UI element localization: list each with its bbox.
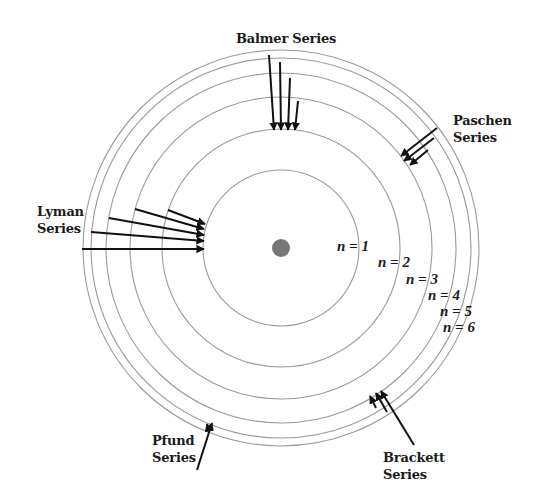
orbit-label-n1: n = 1 (337, 238, 369, 255)
orbit-label-n5: n = 5 (440, 303, 472, 320)
paschen-arrow (401, 128, 437, 156)
orbit-label-n2: n = 2 (378, 254, 410, 271)
pfund-arrow (207, 424, 209, 432)
pfund-label-line-2: Series (152, 449, 196, 466)
balmer-label-line: Balmer Series (236, 31, 336, 46)
nucleus (272, 239, 290, 257)
lyman-label-line-2: Series (37, 220, 84, 237)
paschen-label-line-2: Series (453, 129, 512, 146)
lyman-arrow (168, 210, 205, 224)
brackett-arrow (370, 396, 376, 408)
orbit-label-n3: n = 3 (406, 271, 438, 288)
brackett-label-line-2: Series (383, 466, 445, 483)
brackett-series-label: Brackett Series (383, 449, 445, 483)
balmer-arrow (269, 55, 274, 130)
pfund-series-label: Pfund Series (152, 432, 196, 466)
orbit-label-n4: n = 4 (428, 287, 460, 304)
nucleus-dot (272, 239, 290, 257)
pfund-label-line-1: Pfund (152, 432, 196, 449)
lyman-arrow (109, 218, 204, 235)
balmer-series-label: Balmer Series (236, 30, 336, 47)
lyman-label-line-1: Lyman (37, 203, 84, 220)
paschen-series-label: Paschen Series (453, 112, 512, 146)
lyman-arrow (91, 232, 204, 241)
balmer-arrow (295, 101, 298, 130)
brackett-label-line-1: Brackett (383, 449, 445, 466)
paschen-label-line-1: Paschen (453, 112, 512, 129)
balmer-arrow (288, 78, 290, 130)
paschen-arrow (410, 150, 428, 165)
hydrogen-orbit-diagram (0, 0, 533, 496)
lyman-series-label: Lyman Series (37, 203, 84, 237)
balmer-arrow (280, 62, 281, 130)
orbit-label-n6: n = 6 (443, 319, 475, 336)
